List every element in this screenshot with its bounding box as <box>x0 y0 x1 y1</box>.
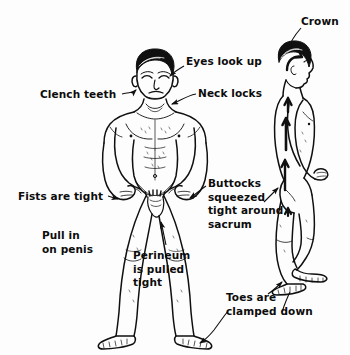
label-perineum-is-pulled-tight: Perineum is pulled tight <box>133 249 190 290</box>
label-neck-locks: Neck locks <box>198 87 262 101</box>
label-buttocks-squeezed-tight-around-sacrum: Buttocks squeezed tight around sacrum <box>208 177 283 231</box>
label-line: sacrum <box>208 218 283 232</box>
label-line: Toes are <box>226 291 313 305</box>
label-line: Buttocks <box>208 177 283 191</box>
label-line: squeezed <box>208 191 283 205</box>
label-line: tight around <box>208 204 283 218</box>
label-line: Pull in <box>42 229 93 243</box>
label-eyes-look-up: Eyes look up <box>186 55 262 69</box>
label-line: tight <box>133 276 190 290</box>
label-line: Neck locks <box>198 87 262 101</box>
label-line: Fists are tight <box>18 190 103 204</box>
label-line: Crown <box>301 15 339 29</box>
label-fists-are-tight: Fists are tight <box>18 190 103 204</box>
label-line: on penis <box>42 243 93 257</box>
label-clench-teeth: Clench teeth <box>40 88 116 102</box>
label-crown: Crown <box>301 15 339 29</box>
label-toes-are-clamped-down: Toes are clamped down <box>226 291 313 318</box>
label-line: Eyes look up <box>186 55 262 69</box>
label-line: is pulled <box>133 263 190 277</box>
label-pull-in-on-penis: Pull in on penis <box>42 229 93 256</box>
label-line: Perineum <box>133 249 190 263</box>
label-line: clamped down <box>226 305 313 319</box>
label-line: Clench teeth <box>40 88 116 102</box>
